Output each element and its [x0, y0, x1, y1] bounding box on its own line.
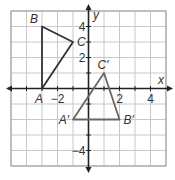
vertex-label-a: A [34, 92, 43, 106]
y-tick-label: −4 [72, 144, 86, 158]
x-axis-arrow-right-icon [167, 86, 173, 92]
x-tick-label: −2 [51, 92, 65, 106]
y-tick-label: 4 [79, 20, 86, 34]
coordinate-plane-figure: xy−22442−4ABCA′B′C′ [0, 0, 175, 180]
x-axis-arrow-left-icon [6, 86, 12, 92]
y-axis-arrow-up-icon [86, 4, 92, 10]
vertex-label-b: B [30, 12, 38, 26]
vertex-label-b-prime: B′ [124, 113, 135, 127]
x-tick-label: 2 [116, 92, 123, 106]
vertex-label-c: C [77, 35, 86, 49]
vertex-label-c-prime: C′ [98, 58, 110, 72]
y-axis-label: y [92, 8, 100, 22]
x-tick-label: 4 [147, 92, 154, 106]
y-tick-label: 2 [79, 51, 86, 65]
x-axis-label: x [157, 73, 165, 87]
axes [6, 4, 173, 173]
y-axis-arrow-down-icon [86, 167, 92, 173]
vertex-label-a-prime: A′ [58, 113, 70, 127]
coordinate-plane-svg: xy−22442−4ABCA′B′C′ [0, 0, 175, 180]
triangle-abc-prime [73, 73, 120, 120]
